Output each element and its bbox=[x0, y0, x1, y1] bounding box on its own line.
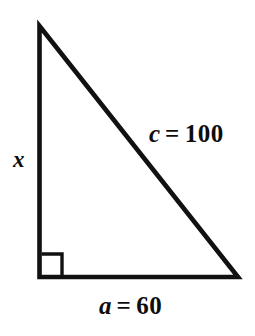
label-a-equals: = bbox=[112, 292, 137, 319]
label-c-equals: = bbox=[160, 120, 185, 147]
label-side-x: x bbox=[13, 148, 25, 171]
label-a-variable: a bbox=[99, 292, 112, 319]
label-c-value: 100 bbox=[185, 120, 224, 147]
geometry-figure: x c=100 a=60 bbox=[0, 0, 255, 336]
label-side-a: a=60 bbox=[99, 293, 162, 318]
label-side-c: c=100 bbox=[149, 121, 224, 146]
right-triangle-drawing bbox=[0, 0, 255, 336]
label-c-variable: c bbox=[149, 120, 160, 147]
label-a-value: 60 bbox=[136, 292, 162, 319]
